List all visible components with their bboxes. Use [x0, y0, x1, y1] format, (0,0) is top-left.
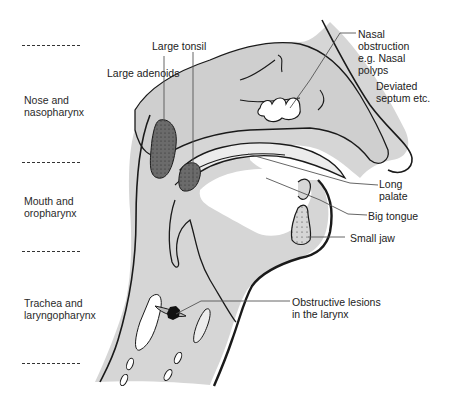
label-long-palate: Long palate [379, 178, 408, 202]
region-divider [22, 162, 80, 163]
region-divider [22, 251, 80, 252]
label-obstructive-lesions: Obstructive lesions in the larynx [292, 296, 381, 320]
region-label-nose: Nose and nasopharynx [24, 94, 84, 118]
region-label-mouth: Mouth and oropharynx [24, 195, 77, 219]
region-divider [22, 45, 80, 46]
label-big-tongue: Big tongue [368, 210, 418, 222]
region-label-trachea: Trachea and laryngopharynx [24, 297, 96, 321]
label-small-jaw: Small jaw [350, 232, 395, 244]
label-nasal-obstruction: Nasal obstruction e.g. Nasal polyps [358, 28, 409, 76]
label-large-adenoids: Large adenoids [107, 67, 179, 79]
label-large-tonsil: Large tonsil [152, 40, 206, 52]
label-deviated-septum: Deviated septum etc. [376, 80, 430, 104]
region-divider [22, 363, 80, 364]
